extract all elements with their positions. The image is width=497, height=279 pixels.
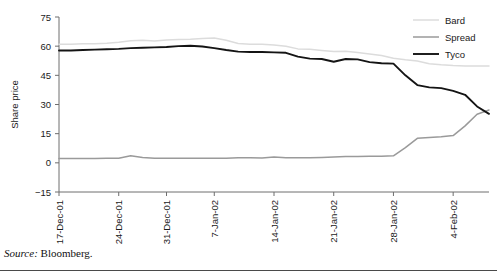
series-line-spread	[59, 110, 489, 159]
x-tick-label: 17-Dec-01	[54, 200, 65, 244]
y-tick-label: 75	[40, 12, 51, 23]
bottom-divider	[0, 270, 497, 271]
y-tick-label: 0	[46, 157, 51, 168]
x-tick-label: 7-Jan-02	[209, 200, 220, 238]
x-tick-label: 4-Feb-02	[448, 200, 459, 239]
series-line-tyco	[59, 46, 489, 114]
x-tick-label: 21-Jan-02	[328, 200, 339, 243]
y-tick-label: 15	[40, 128, 51, 139]
x-tick-label: 14-Jan-02	[269, 200, 280, 243]
y-axis-title: Share price	[9, 80, 20, 129]
y-tick-label: 30	[40, 99, 51, 110]
legend-label-tyco: Tyco	[445, 49, 465, 60]
source-label: Source:	[4, 247, 38, 259]
source-note: Source: Bloomberg.	[4, 247, 93, 259]
legend-label-bard: Bard	[445, 15, 465, 26]
x-tick-label: 24-Dec-01	[113, 200, 124, 244]
line-chart: 75604530150−15Share price17-Dec-0124-Dec…	[0, 0, 497, 279]
x-tick-label: 31-Dec-01	[161, 200, 172, 244]
y-tick-label: 45	[40, 70, 51, 81]
y-tick-label: 60	[40, 41, 51, 52]
source-value: Bloomberg.	[41, 247, 93, 259]
x-tick-label: 28-Jan-02	[388, 200, 399, 243]
chart-figure: 75604530150−15Share price17-Dec-0124-Dec…	[0, 0, 497, 279]
y-tick-label: −15	[35, 187, 51, 198]
legend-label-spread: Spread	[445, 32, 476, 43]
